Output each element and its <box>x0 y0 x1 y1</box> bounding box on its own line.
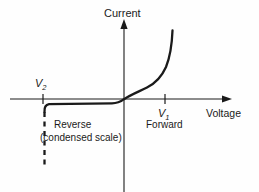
diagram-canvas <box>0 0 259 192</box>
current-axis <box>120 19 127 192</box>
current-axis-arrowhead <box>120 19 127 29</box>
reverse-region-label: Reverse <box>54 120 91 130</box>
condensed-scale-note: (condensed scale) <box>40 133 122 143</box>
current-axis-label: Current <box>104 8 141 19</box>
diode-iv-curve <box>44 31 172 113</box>
v2-label: V2 <box>35 78 47 92</box>
v2-subscript: 2 <box>42 83 46 92</box>
voltage-axis-arrowhead <box>222 95 232 102</box>
forward-region-label: Forward <box>146 120 183 130</box>
voltage-axis-label: Voltage <box>206 108 241 119</box>
diode-iv-characteristic-figure: Current Voltage V2 V1 Reverse (condensed… <box>0 0 259 192</box>
